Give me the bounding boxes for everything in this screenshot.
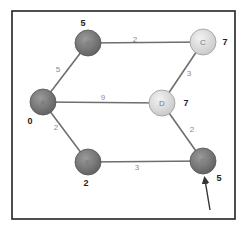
node-distance: 5 bbox=[216, 173, 221, 183]
node-distance: 7 bbox=[222, 37, 227, 47]
node-label: C bbox=[200, 38, 206, 47]
node-f: F5 bbox=[190, 148, 222, 183]
edge-b-c bbox=[88, 42, 203, 43]
node-c: C7 bbox=[190, 29, 228, 55]
pointer-arrow bbox=[205, 180, 210, 210]
edge-weight-a-d: 9 bbox=[101, 93, 106, 102]
edge-weight-a-e: 2 bbox=[54, 123, 59, 132]
node-label: B bbox=[85, 39, 90, 48]
node-a: A0 bbox=[27, 89, 56, 126]
node-label: D bbox=[159, 99, 165, 108]
edge-weight-b-c: 2 bbox=[133, 35, 138, 44]
node-label: F bbox=[201, 157, 206, 166]
node-distance: 2 bbox=[83, 178, 88, 188]
node-d: D7 bbox=[149, 90, 189, 116]
edge-weight-d-f: 2 bbox=[190, 125, 195, 134]
node-distance: 5 bbox=[80, 18, 85, 28]
node-distance: 7 bbox=[183, 98, 188, 108]
graph-diagram: 5293223 A0B5C7D7E2F5 bbox=[0, 0, 247, 228]
edge-e-f bbox=[88, 161, 203, 162]
edge-a-d bbox=[43, 102, 162, 103]
edge-weight-e-f: 3 bbox=[135, 163, 140, 172]
edges: 5293223 bbox=[43, 35, 203, 172]
edge-weight-c-d: 3 bbox=[187, 69, 192, 78]
arrow-icon bbox=[205, 180, 210, 210]
node-distance: 0 bbox=[27, 116, 32, 126]
node-label: A bbox=[40, 98, 46, 107]
node-label: E bbox=[85, 158, 90, 167]
node-b: B5 bbox=[75, 18, 101, 56]
node-e: E2 bbox=[75, 149, 101, 188]
edge-weight-a-b: 5 bbox=[56, 65, 61, 74]
